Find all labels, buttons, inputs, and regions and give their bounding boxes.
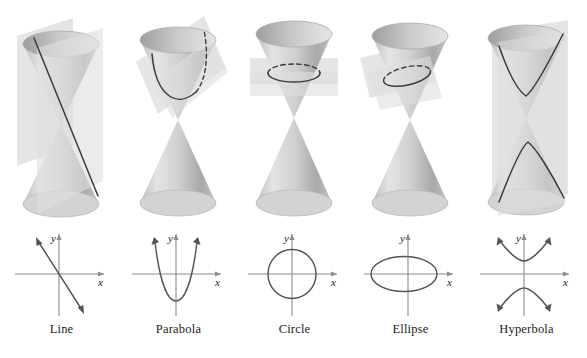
y-axis-arrowhead bbox=[173, 234, 178, 240]
cone-diagram-circle bbox=[236, 6, 353, 224]
caption-line: Line bbox=[3, 322, 120, 337]
y-axis-label: y bbox=[399, 232, 405, 244]
axes bbox=[132, 234, 221, 316]
conic-column-ellipse: y x Ellipse bbox=[352, 0, 469, 358]
cone-diagram-ellipse bbox=[352, 6, 469, 224]
caption-circle: Circle bbox=[236, 322, 353, 337]
y-axis-label: y bbox=[50, 232, 56, 244]
graph-circle: y x bbox=[236, 228, 353, 320]
axes bbox=[248, 234, 337, 316]
caption-hyperbola: Hyperbola bbox=[468, 322, 585, 337]
cone-bottom-rim bbox=[140, 190, 216, 216]
cutting-plane-front bbox=[498, 30, 566, 216]
x-axis-label: x bbox=[446, 276, 452, 288]
y-axis-label: y bbox=[283, 232, 289, 244]
graph-hyperbola: y x bbox=[468, 228, 585, 320]
x-axis-label: x bbox=[97, 276, 103, 288]
conic-column-hyperbola: y x Hyperbola bbox=[468, 0, 585, 358]
conic-column-line: y x Line bbox=[3, 0, 120, 358]
caption-parabola: Parabola bbox=[120, 322, 237, 337]
x-axis-label: x bbox=[330, 276, 336, 288]
cone-diagram-line bbox=[3, 6, 120, 224]
cone-bottom-rim bbox=[256, 190, 332, 216]
graph-line: y x bbox=[3, 228, 120, 320]
y-axis-arrowhead bbox=[405, 234, 410, 240]
line-arrowhead-lower bbox=[78, 305, 84, 314]
cone-bottom-rim bbox=[372, 190, 448, 216]
y-axis-arrowhead bbox=[289, 234, 294, 240]
cutting-plane-front bbox=[250, 72, 338, 96]
x-axis-label: x bbox=[214, 276, 220, 288]
y-axis-arrowhead bbox=[521, 234, 526, 240]
conic-column-parabola: y x Parabola bbox=[120, 0, 237, 358]
y-axis-label: y bbox=[515, 232, 521, 244]
conic-sections-figure: y x Line bbox=[0, 0, 587, 358]
line-curve bbox=[38, 241, 82, 310]
conic-column-circle: y x Circle bbox=[236, 0, 353, 358]
y-axis-arrowhead bbox=[56, 234, 61, 240]
cone-diagram-hyperbola bbox=[468, 6, 585, 224]
cone-diagram-parabola bbox=[120, 6, 237, 224]
cutting-plane-front bbox=[37, 28, 103, 214]
x-axis-label: x bbox=[562, 276, 568, 288]
caption-ellipse: Ellipse bbox=[352, 322, 469, 337]
line-arrowhead-upper bbox=[36, 237, 42, 246]
graph-parabola: y x bbox=[120, 228, 237, 320]
axes bbox=[364, 234, 453, 316]
graph-ellipse: y x bbox=[352, 228, 469, 320]
axes bbox=[480, 234, 569, 316]
y-axis-label: y bbox=[167, 232, 173, 244]
